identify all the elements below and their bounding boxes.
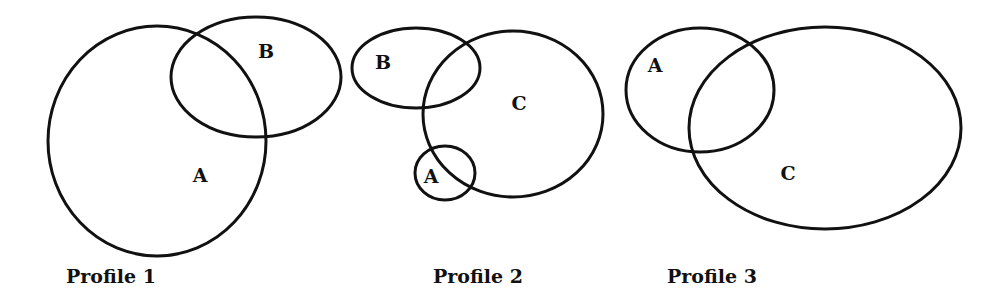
profile-1-caption: Profile 1 [66,265,156,287]
set-a-label: A [192,164,208,186]
profile-2: B C A Profile 2 [352,28,603,287]
euler-diagram-canvas: A B Profile 1 B C A Profile 2 A C Profil… [0,0,1007,299]
profile-3-caption: Profile 3 [667,265,757,287]
profile-3: A C Profile 3 [626,27,961,287]
set-b-ellipse [171,17,341,137]
set-a-label: A [647,54,663,76]
set-c-label: C [780,162,795,184]
set-b-label: B [258,40,274,62]
set-c-ellipse [423,31,603,197]
set-a-ellipse [48,26,266,256]
set-a-label: A [423,165,439,187]
set-b-label: B [375,51,391,73]
set-b-ellipse [352,28,480,108]
set-c-ellipse [689,27,961,229]
profile-2-caption: Profile 2 [433,265,523,287]
set-c-label: C [511,92,526,114]
profile-1: A B Profile 1 [48,17,341,287]
